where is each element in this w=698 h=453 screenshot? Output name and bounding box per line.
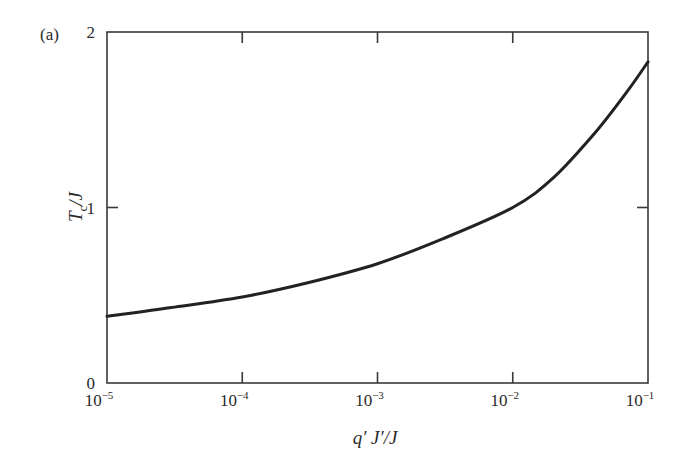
plot-frame bbox=[107, 32, 648, 383]
x-tick-label: 10−1 bbox=[626, 389, 655, 410]
x-tick-label: 10−4 bbox=[220, 389, 249, 410]
x-tick-label: 10−3 bbox=[355, 389, 384, 410]
x-axis-label: q′ J′/J bbox=[353, 427, 399, 448]
tc-curve bbox=[107, 62, 648, 316]
x-tick-label: 10−2 bbox=[490, 389, 519, 410]
y-tick-label: 2 bbox=[87, 23, 96, 42]
panel-label: (a) bbox=[40, 25, 59, 44]
x-axis-ticks: 10−510−410−310−210−1 bbox=[85, 32, 655, 410]
chart: (a) 10−510−410−310−210−1 012 q′ J′/J Tc/… bbox=[0, 0, 698, 453]
y-axis-ticks: 012 bbox=[87, 23, 649, 393]
y-tick-label: 0 bbox=[87, 374, 96, 393]
